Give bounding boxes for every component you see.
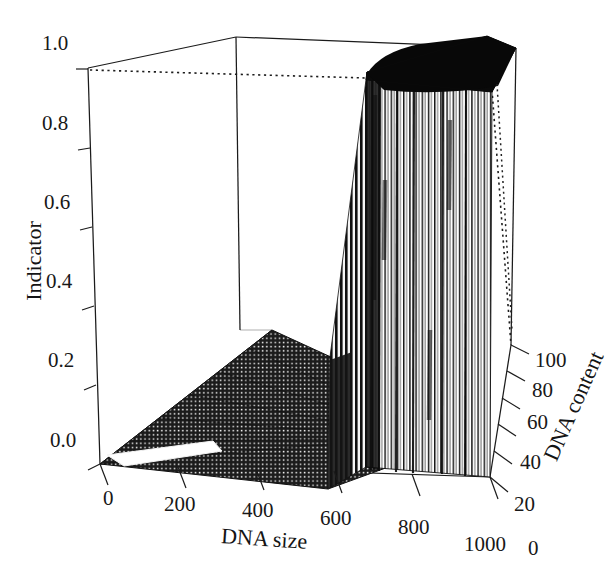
z-axis-label: Indicator: [23, 221, 45, 300]
z-tick-label: 0.8: [42, 113, 68, 134]
x-tick-label: 1000: [464, 534, 506, 555]
x-tick-label: 600: [320, 508, 352, 529]
plateau-right-dotted-edge: [497, 84, 512, 330]
box-edge-back-vertical: [236, 37, 240, 330]
x-tick-label: 800: [398, 517, 430, 538]
x-tick-label: 200: [164, 494, 196, 515]
y-tick-label: 100: [535, 350, 567, 371]
z-tick-label: 0.0: [50, 430, 76, 451]
z-tick-label: 0.6: [44, 192, 70, 213]
box-edge-right-vertical: [511, 48, 516, 345]
z-axis-ticks: [76, 69, 100, 470]
y-tick-label: 0: [528, 538, 539, 559]
z-axis-line: [88, 68, 100, 464]
x-tick-label: 400: [242, 500, 274, 521]
surface-riser-front-face: [366, 72, 492, 477]
box-edge-back-top-left: [88, 37, 236, 68]
z-tick-label: 0.4: [46, 271, 72, 292]
z-tick-label: 1.0: [42, 33, 68, 54]
y-tick-label: 60: [527, 412, 548, 433]
x-tick-label: 0: [103, 488, 114, 509]
y-tick-label: 40: [520, 452, 541, 473]
surface-plateau-top: [366, 36, 516, 92]
y-tick-label: 20: [514, 494, 535, 515]
y-tick-label: 80: [532, 380, 553, 401]
z-tick-label: 0.2: [48, 350, 74, 371]
x-axis-label: DNA size: [220, 525, 307, 553]
y-axis-line: [490, 345, 511, 477]
